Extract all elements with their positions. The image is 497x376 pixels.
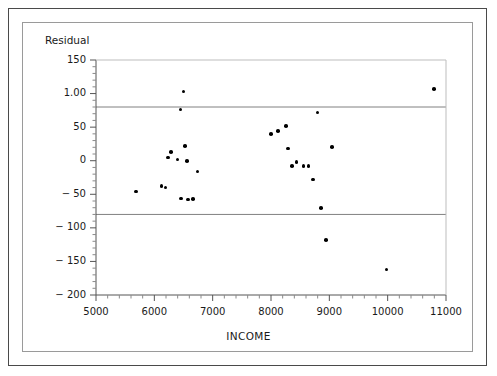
scatter-point [302, 164, 306, 168]
scatter-point [286, 147, 290, 151]
scatter-point [295, 160, 299, 164]
scatter-point [276, 129, 280, 133]
scatter-point [179, 197, 183, 201]
scatter-point [319, 206, 323, 210]
scatter-point [191, 197, 195, 201]
scatter-point [311, 178, 315, 182]
scatter-point [169, 150, 173, 154]
scatter-point [316, 111, 320, 115]
scatter-point [176, 158, 180, 162]
scatter-point [290, 164, 294, 168]
scatter-point [183, 144, 187, 148]
scatter-point [269, 132, 273, 136]
scatter-point [179, 108, 183, 112]
scatter-point [196, 170, 200, 174]
scatter-point [182, 90, 186, 94]
scatter-point [284, 124, 288, 128]
scatter-point [166, 156, 170, 160]
scatter-point [432, 87, 436, 91]
scatter-point [324, 238, 328, 242]
scatter-point [164, 186, 168, 190]
figure-root: Residual INCOME 1501.00500− 50− 100− 150… [0, 0, 497, 376]
scatter-point [134, 190, 138, 194]
scatter-point [160, 184, 164, 188]
scatter-point [307, 164, 311, 168]
scatter-point [186, 198, 190, 202]
scatter-point [330, 145, 334, 149]
scatter-point [385, 268, 389, 272]
scatter-points-layer [0, 0, 497, 376]
scatter-point [185, 159, 189, 163]
